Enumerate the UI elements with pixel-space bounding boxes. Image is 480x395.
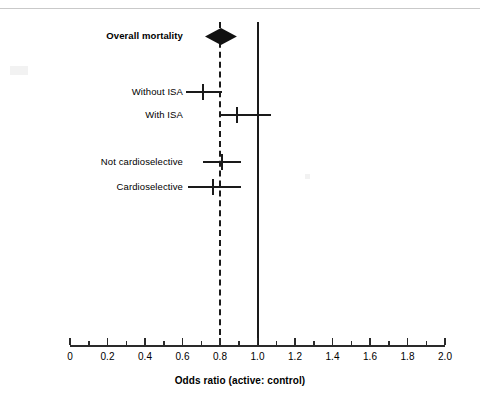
x-axis-tick-label: 0.4 — [138, 351, 152, 362]
forest-row: Cardioselective — [0, 177, 480, 197]
x-axis-major-tick — [144, 338, 146, 345]
x-axis-tick-label: 1.2 — [288, 351, 302, 362]
x-axis-tick-label: 2.0 — [438, 351, 452, 362]
x-axis-tick-label: 0.6 — [176, 351, 190, 362]
x-axis-major-tick — [257, 338, 259, 345]
point-estimate-marker — [221, 154, 223, 170]
confidence-interval-line — [188, 186, 241, 188]
x-axis-line — [70, 345, 445, 347]
x-axis-tick-label: 1.8 — [401, 351, 415, 362]
summary-diamond-marker — [205, 28, 237, 45]
forest-row: Without ISA — [0, 82, 480, 102]
forest-row-label: Cardioselective — [117, 177, 183, 197]
confidence-interval-line — [220, 114, 271, 116]
x-axis-major-tick — [219, 338, 221, 345]
x-axis-major-tick — [444, 338, 446, 345]
x-axis-minor-tick — [126, 341, 128, 345]
x-axis-minor-tick — [351, 341, 353, 345]
forest-row-label: Overall mortality — [106, 26, 183, 46]
x-axis-title: Odds ratio (active: control) — [0, 375, 480, 386]
x-axis-major-tick — [332, 338, 334, 345]
plot-area: Overall mortalityWithout ISAWith ISANot … — [0, 0, 480, 395]
x-axis-major-tick — [182, 338, 184, 345]
x-axis-tick-label: 0 — [67, 351, 73, 362]
x-axis-major-tick — [407, 338, 409, 345]
x-axis-minor-tick — [163, 341, 165, 345]
x-axis-major-tick — [369, 338, 371, 345]
x-axis-minor-tick — [201, 341, 203, 345]
forest-row-label: Not cardioselective — [101, 152, 183, 172]
x-axis-minor-tick — [313, 341, 315, 345]
x-axis-minor-tick — [88, 341, 90, 345]
x-axis-tick-label: 1.6 — [363, 351, 377, 362]
point-estimate-marker — [236, 107, 238, 123]
forest-row-label: Without ISA — [132, 82, 183, 102]
forest-row: Overall mortality — [0, 26, 480, 46]
x-axis-minor-tick — [238, 341, 240, 345]
x-axis-major-tick — [294, 338, 296, 345]
point-estimate-marker — [202, 84, 204, 100]
forest-row: With ISA — [0, 105, 480, 125]
x-axis-tick-label: 0.8 — [213, 351, 227, 362]
x-axis-minor-tick — [276, 341, 278, 345]
point-estimate-marker — [212, 179, 214, 195]
x-axis-tick-label: 1.4 — [326, 351, 340, 362]
x-axis-tick-label: 1.0 — [251, 351, 265, 362]
x-axis-minor-tick — [388, 341, 390, 345]
forest-row-label: With ISA — [145, 105, 183, 125]
x-axis-tick-label: 0.2 — [101, 351, 115, 362]
forest-plot-figure: Overall mortalityWithout ISAWith ISANot … — [0, 0, 480, 395]
x-axis-major-tick — [69, 338, 71, 345]
forest-row: Not cardioselective — [0, 152, 480, 172]
x-axis-major-tick — [107, 338, 109, 345]
x-axis-minor-tick — [426, 341, 428, 345]
